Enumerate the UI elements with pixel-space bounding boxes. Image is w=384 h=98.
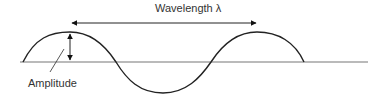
amplitude-pointer [50, 49, 64, 72]
wave-diagram: Wavelength λ Amplitude [0, 0, 384, 98]
wavelength-label: Wavelength λ [155, 2, 221, 14]
amplitude-label: Amplitude [28, 77, 77, 89]
